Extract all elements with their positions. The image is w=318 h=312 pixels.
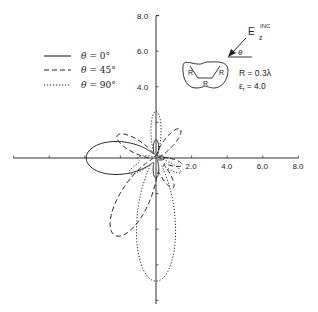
curve-dotted (129, 111, 181, 281)
y-tick-label: 4.0 (137, 83, 149, 92)
scatterer-inner (190, 66, 220, 78)
shape-label-r-center: R (203, 80, 208, 87)
legend-symbol: θ (81, 80, 87, 90)
legend-theta-0: θ= 0° (81, 51, 110, 61)
e-inc-superscript: INC (260, 23, 271, 29)
legend-value: = 45° (89, 65, 115, 75)
incident-field-annotation: E INC z θ (228, 23, 271, 57)
legend-symbol: θ (81, 51, 87, 61)
legend-symbol: θ (81, 65, 87, 75)
param-permittivity: εr= 4.0 (239, 81, 266, 92)
legend-value: = 0° (89, 51, 110, 61)
curve-dashed (110, 129, 182, 237)
axes (14, 16, 299, 304)
scatterer-shape: R R R (183, 62, 228, 88)
legend: θ= 0° θ= 45° θ= 90° (44, 51, 116, 90)
x-tick-label: 4.0 (221, 162, 233, 171)
tick-labels: 2.04.06.08.04.06.08.0 (137, 12, 304, 171)
shape-label-r-left: R (188, 69, 193, 76)
curves (86, 111, 182, 281)
x-tick-label: 2.0 (186, 162, 198, 171)
x-tick-label: 8.0 (292, 162, 304, 171)
param-radius: R = 0.3λ (239, 68, 272, 78)
epsilon-value: = 4.0 (247, 81, 266, 91)
legend-theta-90: θ= 90° (81, 80, 116, 90)
polar-pattern-chart: 2.04.06.08.04.06.08.0 θ= 0° θ= 45° θ= 90… (0, 0, 318, 312)
legend-value: = 90° (89, 80, 115, 90)
legend-theta-45: θ= 45° (81, 65, 116, 75)
e-inc-subscript: z (259, 34, 263, 41)
y-tick-label: 8.0 (137, 12, 149, 21)
shape-label-r-right: R (219, 69, 224, 76)
parameters: R = 0.3λ εr= 4.0 (239, 68, 272, 92)
e-inc-label: E (248, 26, 255, 37)
x-tick-label: 6.0 (257, 162, 269, 171)
epsilon-subscript: r (243, 86, 245, 92)
y-tick-label: 6.0 (137, 47, 149, 56)
incident-angle-label: θ (238, 48, 243, 57)
